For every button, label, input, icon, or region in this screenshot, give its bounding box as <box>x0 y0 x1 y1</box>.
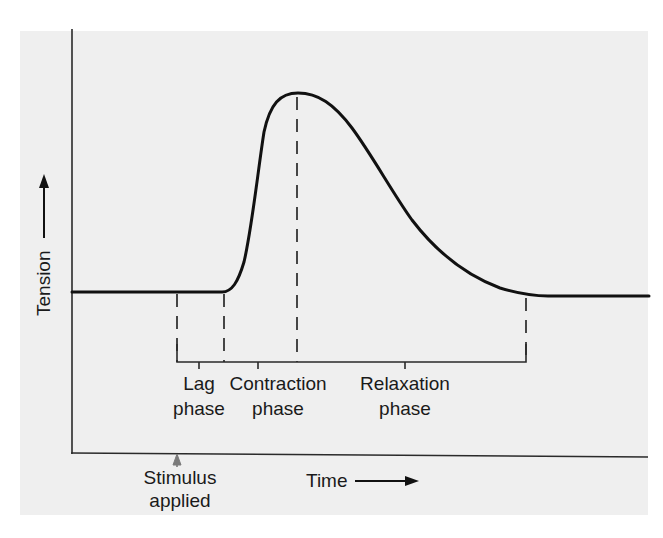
contraction-phase-label-2: phase <box>252 398 304 419</box>
relaxation-phase-label: Relaxation <box>360 373 450 394</box>
background-panel <box>20 31 648 515</box>
lag-phase-label-2: phase <box>173 398 225 419</box>
stimulus-label-2: applied <box>149 490 210 511</box>
muscle-twitch-diagram: Lag phase Contraction phase Relaxation p… <box>0 0 663 538</box>
relaxation-phase-label-2: phase <box>379 398 431 419</box>
lag-phase-label: Lag <box>183 373 215 394</box>
tension-label: Tension <box>33 251 54 317</box>
time-label: Time <box>306 470 348 491</box>
stimulus-label: Stimulus <box>144 467 217 488</box>
contraction-phase-label: Contraction <box>229 373 326 394</box>
